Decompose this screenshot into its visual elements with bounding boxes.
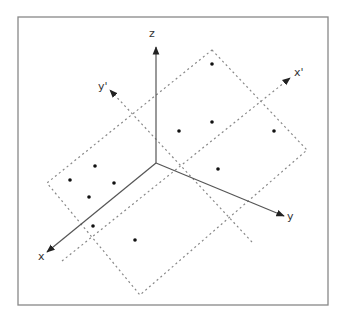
x-axis-line bbox=[47, 163, 156, 252]
x-prime-axis-line bbox=[62, 78, 290, 261]
rotated-axes-group bbox=[62, 78, 290, 261]
x-axis-label: x bbox=[38, 250, 45, 263]
data-point bbox=[133, 238, 137, 242]
data-point bbox=[112, 181, 116, 185]
y-prime-axis-line bbox=[110, 90, 252, 242]
y-prime-axis-label: y' bbox=[98, 80, 108, 93]
tilted-plane-outline bbox=[47, 50, 307, 295]
data-point bbox=[68, 178, 72, 182]
data-point bbox=[210, 120, 214, 124]
data-point bbox=[177, 129, 181, 133]
y-axis-label: y bbox=[287, 210, 294, 223]
data-point bbox=[93, 164, 97, 168]
data-point bbox=[216, 167, 220, 171]
3d-coordinate-diagram: x'y'zxy bbox=[0, 0, 344, 320]
diagram-frame bbox=[18, 17, 328, 305]
z-axis-label: z bbox=[149, 27, 155, 40]
axis-labels-group: x'y'zxy bbox=[38, 27, 304, 263]
data-point bbox=[272, 129, 276, 133]
x-prime-axis-label: x' bbox=[294, 66, 304, 79]
data-point bbox=[91, 224, 95, 228]
data-point bbox=[210, 62, 214, 66]
data-point bbox=[87, 195, 91, 199]
